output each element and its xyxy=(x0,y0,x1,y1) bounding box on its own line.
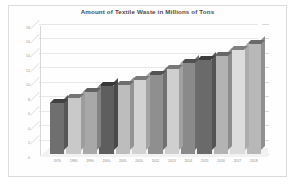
x-tick-label: 1970 xyxy=(49,160,65,163)
x-tick-label: 2015 xyxy=(196,160,212,163)
bar-side-face xyxy=(114,78,118,150)
y-tick-label: 14 xyxy=(26,56,30,60)
gridline-depth-edge xyxy=(30,121,40,131)
bars-group xyxy=(40,24,268,154)
x-axis-labels: 1970198019902000200520102012201320142015… xyxy=(30,160,268,170)
bar xyxy=(230,50,244,154)
bar-side-face xyxy=(179,61,183,150)
y-tick-label: 2 xyxy=(28,142,30,146)
x-tick-label: 2018 xyxy=(246,160,262,163)
x-tick-label: 2000 xyxy=(98,160,114,163)
y-tick-label: 4 xyxy=(28,128,30,132)
y-tick-label: 10 xyxy=(26,84,30,88)
bar-side-face xyxy=(163,67,167,150)
chart-title: Amount of Textile Waste in Millions of T… xyxy=(0,8,295,15)
bar-front-face xyxy=(66,98,80,154)
bar-side-face xyxy=(97,84,101,150)
x-tick-label: 2016 xyxy=(213,160,229,163)
bar-front-face xyxy=(50,103,64,154)
bar-side-face xyxy=(130,77,134,150)
bar-side-face xyxy=(64,95,68,150)
bar-front-face xyxy=(230,50,244,154)
bar xyxy=(50,103,64,154)
bar xyxy=(181,63,195,154)
bar-side-face xyxy=(245,42,249,150)
x-tick-label: 2013 xyxy=(164,160,180,163)
x-tick-label: 1980 xyxy=(65,160,81,163)
gridline-depth-edge xyxy=(30,135,40,145)
bar xyxy=(66,98,80,154)
gridline-depth-edge xyxy=(30,63,40,73)
bar xyxy=(197,60,211,154)
bar-front-face xyxy=(132,80,146,154)
gridline-depth-edge xyxy=(30,34,40,44)
bar-front-face xyxy=(181,63,195,154)
bar xyxy=(99,86,113,154)
gridline-depth-edge xyxy=(30,77,40,87)
chart-canvas: Amount of Textile Waste in Millions of T… xyxy=(0,0,295,184)
gridline-depth-edge xyxy=(30,92,40,102)
bar-side-face xyxy=(212,52,216,150)
y-tick-label: 16 xyxy=(26,41,30,45)
plot-area: 024681012141618 xyxy=(30,24,268,156)
gridline-depth-edge xyxy=(30,49,40,59)
bar-side-face xyxy=(228,48,232,150)
bar xyxy=(132,80,146,154)
bar-side-face xyxy=(146,72,150,150)
y-tick-label: 6 xyxy=(28,113,30,117)
bar-front-face xyxy=(99,86,113,154)
bar-front-face xyxy=(197,60,211,154)
bar-side-face xyxy=(81,90,85,150)
x-tick-label: 2014 xyxy=(180,160,196,163)
bar-side-face xyxy=(195,55,199,150)
x-tick-label: 2012 xyxy=(147,160,163,163)
bar xyxy=(148,75,162,154)
gridline-depth-edge xyxy=(30,106,40,116)
x-tick-label: 2017 xyxy=(229,160,245,163)
bar-front-face xyxy=(148,75,162,154)
x-tick-label: 2005 xyxy=(115,160,131,163)
x-tick-label: 2010 xyxy=(131,160,147,163)
y-tick-label: 12 xyxy=(26,70,30,74)
bar-side-face xyxy=(261,36,265,150)
x-tick-label: 1990 xyxy=(82,160,98,163)
y-tick-label: 8 xyxy=(28,99,30,103)
y-tick-label: 18 xyxy=(26,27,30,31)
